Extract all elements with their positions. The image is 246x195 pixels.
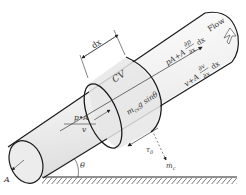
svg-text:θ: θ: [80, 161, 85, 170]
svg-text:p•A: p•A: [74, 113, 89, 122]
mass-flux: ṁc: [152, 130, 176, 171]
pipe-control-volume-diagram: dx CV pA+A ∂p ∂x dx v+A ∂v ∂x dx Flow p•…: [0, 0, 246, 195]
incline-angle: θ: [74, 158, 85, 177]
svg-text:τ0: τ0: [146, 146, 154, 155]
ground: [42, 177, 237, 184]
svg-text:A: A: [3, 175, 10, 184]
svg-text:ṁc: ṁc: [166, 162, 176, 171]
dx-label: dx: [90, 37, 103, 50]
